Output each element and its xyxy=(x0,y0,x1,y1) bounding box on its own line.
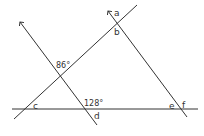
label-e: e xyxy=(169,102,175,111)
diagram-lines xyxy=(0,0,204,136)
label-d: d xyxy=(94,112,100,121)
label-a: a xyxy=(114,9,120,18)
geometry-diagram: a b 86° c 128° d e f xyxy=(0,0,204,136)
angle-label-128: 128° xyxy=(84,100,103,108)
label-c: c xyxy=(33,102,38,111)
label-b: b xyxy=(114,28,120,37)
angle-label-86: 86° xyxy=(56,62,70,70)
left-transversal-line xyxy=(20,22,97,125)
label-f: f xyxy=(182,101,185,110)
